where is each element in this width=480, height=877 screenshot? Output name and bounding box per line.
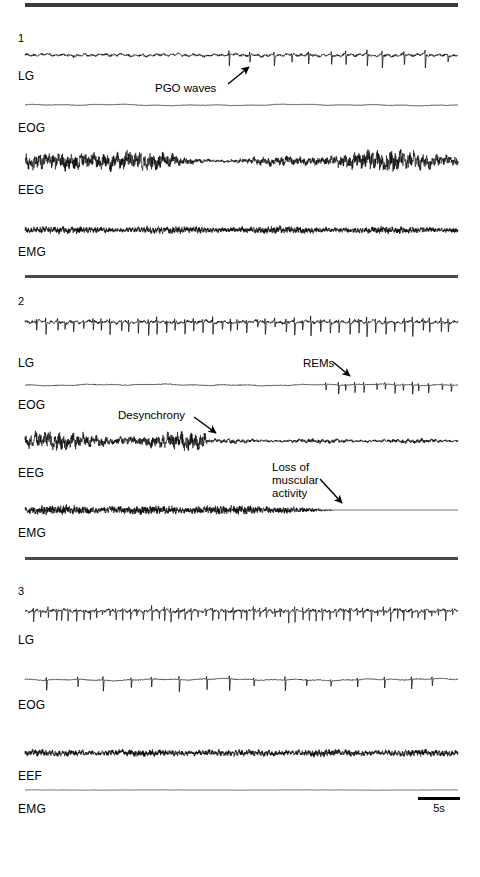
- trace-panel2-eog: [25, 374, 458, 400]
- channel-label-panel3-emg: EMG: [18, 803, 46, 815]
- channel-label-panel2-lg: LG: [18, 357, 34, 369]
- scale-bar-label: 5s: [418, 803, 460, 814]
- channel-label-panel1-eog: EOG: [18, 122, 45, 134]
- channel-label-panel2-emg: EMG: [18, 527, 46, 539]
- trace-panel3-emg: [25, 784, 458, 796]
- channel-label-panel2-eog: EOG: [18, 399, 45, 411]
- channel-label-panel1-lg: LG: [18, 70, 34, 82]
- scale-bar: [418, 797, 460, 800]
- annotation-pgo-waves: PGO waves: [155, 82, 216, 95]
- channel-label-panel1-eeg: EEG: [18, 184, 44, 196]
- trace-panel2-emg: [25, 498, 458, 522]
- trace-panel3-eog: [25, 666, 458, 700]
- panel-number-3: 3: [18, 586, 24, 597]
- channel-label-panel1-emg: EMG: [18, 246, 46, 258]
- panel-number-2: 2: [18, 296, 24, 307]
- channel-label-panel2-eeg: EEG: [18, 467, 44, 479]
- top-rule: [25, 3, 458, 7]
- panel-number-1: 1: [18, 33, 24, 44]
- trace-panel2-lg: [25, 306, 458, 346]
- figure-root: 1 LG EOG EEG EMG PGO waves 2 LG EOG EEG …: [0, 0, 480, 877]
- panel-divider-2: [25, 557, 458, 560]
- trace-panel1-emg: [25, 218, 458, 242]
- trace-panel1-eeg: [25, 138, 458, 184]
- annotation-loss-of-muscular-activity: Loss of muscular activity: [272, 461, 319, 500]
- annotation-desynchrony: Desynchrony: [118, 409, 185, 422]
- channel-label-panel3-eef: EEF: [18, 770, 42, 782]
- trace-panel1-eog: [25, 96, 458, 114]
- trace-panel2-eeg: [25, 422, 458, 460]
- trace-panel3-eef: [25, 742, 458, 764]
- channel-label-panel3-eog: EOG: [18, 699, 45, 711]
- channel-label-panel3-lg: LG: [18, 634, 34, 646]
- trace-panel3-lg: [25, 598, 458, 632]
- annotation-rems: REMs: [303, 357, 334, 370]
- trace-panel1-lg: [25, 40, 458, 76]
- panel-divider-1: [25, 275, 458, 278]
